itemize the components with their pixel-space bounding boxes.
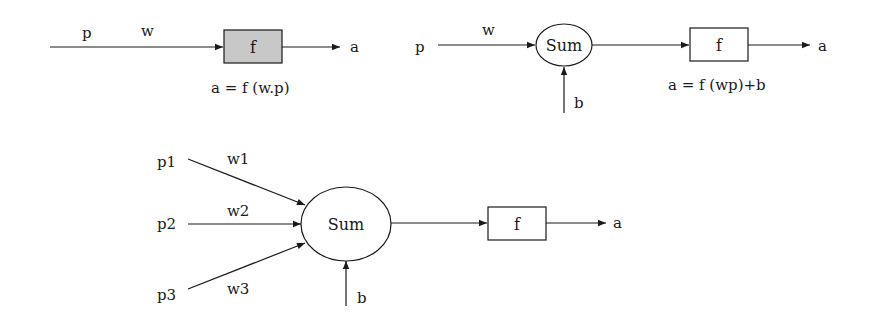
input-label-p: p [82,24,92,42]
diagram-simple-neuron: p w f a a = f (w.p) [50,22,359,97]
weight-label-w: w [482,21,495,39]
sum-label: Sum [328,215,364,234]
equation-1: a = f (w.p) [211,79,290,97]
neuron-diagrams: p w f a a = f (w.p) p w Sum b f a a = f … [0,0,870,328]
bias-label-b: b [574,94,584,112]
equation-2: a = f (wp)+b [668,76,766,94]
weight-label-w3: w3 [227,280,249,298]
weight-label-w2: w2 [227,202,249,220]
input-label-p2: p2 [157,215,176,233]
input-label-p3: p3 [157,286,176,304]
diagram-multi-input-neuron: p1 w1 p2 w2 p3 w3 Sum b f a [157,150,622,307]
sum-label: Sum [546,36,582,55]
output-label-a: a [613,214,622,232]
output-label-a: a [818,37,827,55]
output-label-a: a [350,38,359,56]
weight-label-w: w [141,22,154,40]
input-label-p: p [415,38,425,56]
diagram-neuron-with-bias: p w Sum b f a a = f (wp)+b [415,21,827,113]
weight-label-w1: w1 [227,150,249,168]
bias-label-b: b [357,289,367,307]
input-label-p1: p1 [157,153,176,171]
